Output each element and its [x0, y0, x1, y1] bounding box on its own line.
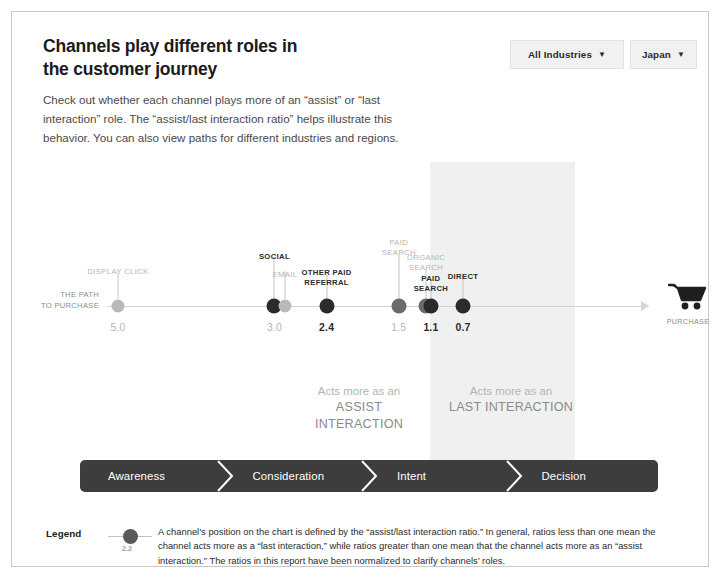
legend-sample-value: 2.2: [122, 544, 132, 553]
funnel-stage-consideration[interactable]: Consideration: [253, 460, 325, 492]
last-callout-line1: Acts more as an: [446, 384, 576, 399]
channel-label: OTHER PAIDREFERRAL: [301, 268, 351, 288]
last-callout-line2: LAST INTERACTION: [446, 399, 576, 416]
channel-value: 0.7: [455, 322, 470, 333]
legend-sample-marker: 2.2: [108, 525, 152, 549]
funnel-stage-decision[interactable]: Decision: [542, 460, 586, 492]
assist-callout-line1: Acts more as an: [294, 384, 424, 399]
channel-dot[interactable]: [423, 299, 438, 314]
assist-interaction-callout: Acts more as an ASSIST INTERACTION: [294, 384, 424, 433]
channel-value: 2.4: [319, 322, 334, 333]
legend-sample-dot: [123, 529, 138, 544]
industry-filter-dropdown[interactable]: All Industries ▼: [510, 40, 624, 69]
channel-dot[interactable]: [112, 300, 125, 313]
funnel-stage-awareness[interactable]: Awareness: [108, 460, 165, 492]
chevron-down-icon: ▼: [677, 51, 685, 59]
legend-description: A channel’s position on the chart is def…: [158, 525, 680, 568]
channel-dot[interactable]: [456, 299, 471, 314]
chevron-down-icon: ▼: [598, 51, 606, 59]
channel-dot[interactable]: [319, 299, 334, 314]
industry-filter-label: All Industries: [528, 49, 592, 60]
funnel-stage-divider-icon: [503, 460, 525, 492]
channel-value: 3.0: [267, 322, 282, 333]
assist-callout-line2: ASSIST INTERACTION: [294, 399, 424, 433]
channel-value: 5.0: [110, 322, 125, 333]
channel-label: DIRECT: [448, 272, 479, 282]
axis-arrow-icon: [641, 301, 649, 311]
path-axis-line: [107, 306, 649, 307]
channel-label: EMAIL: [272, 270, 297, 280]
channel-value: 1.1: [423, 322, 438, 333]
funnel-stage-intent[interactable]: Intent: [397, 460, 426, 492]
region-filter-label: Japan: [642, 49, 671, 60]
axis-origin-label: THE PATHTO PURCHASE: [37, 289, 99, 311]
legend-title: Legend: [46, 528, 81, 539]
last-interaction-band: [430, 162, 575, 467]
last-interaction-callout: Acts more as an LAST INTERACTION: [446, 384, 576, 416]
funnel-stage-divider-icon: [214, 460, 236, 492]
funnel-stages-bar: AwarenessConsiderationIntentDecision: [80, 460, 658, 492]
purchase-label: PURCHASE: [666, 317, 710, 326]
region-filter-dropdown[interactable]: Japan ▼: [630, 40, 697, 69]
channel-label: ORGANICSEARCH: [407, 253, 445, 273]
channel-dot[interactable]: [278, 300, 291, 313]
channel-label: SOCIAL: [259, 252, 290, 262]
channel-label: PAIDSEARCH: [414, 274, 449, 294]
channel-dot[interactable]: [391, 299, 406, 314]
channel-value: 1.5: [391, 322, 406, 333]
page-title: Channels play different roles inthe cust…: [43, 35, 443, 81]
report-card: Channels play different roles inthe cust…: [11, 11, 709, 567]
channel-label: DISPLAY CLICK: [87, 267, 148, 277]
purchase-endpoint: PURCHASE: [666, 282, 710, 326]
shopping-cart-icon: [668, 282, 708, 310]
page-description: Check out whether each channel plays mor…: [43, 91, 413, 148]
funnel-stage-divider-icon: [358, 460, 380, 492]
node-stem: [398, 255, 399, 299]
